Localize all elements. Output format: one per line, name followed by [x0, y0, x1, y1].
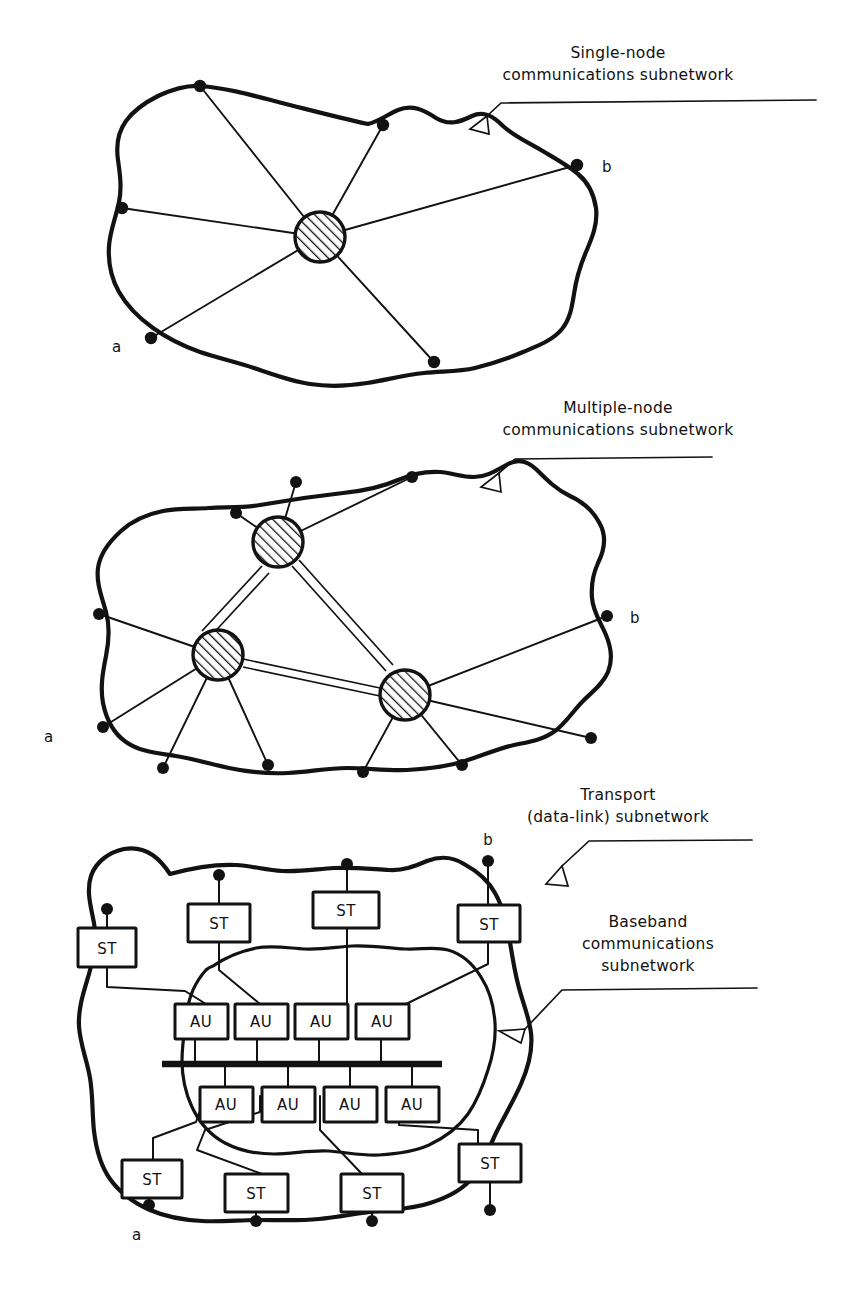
panel3-node-dot: [484, 1204, 496, 1216]
au-box-label: AU: [250, 1013, 272, 1031]
panel1-caption-line2: communications subnetwork: [502, 66, 733, 84]
panel2-subnetwork-boundary: [98, 461, 611, 773]
panel-transport: Transport (data-link) subnetwork Baseban…: [78, 786, 757, 1244]
st-box-label: ST: [246, 1185, 266, 1203]
panel1-node-dot: [571, 159, 583, 171]
au-box: AU: [175, 1004, 228, 1039]
panel2-endpoint-label-b: b: [630, 609, 640, 627]
panel3-caption-line2: (data-link) subnetwork: [527, 808, 709, 826]
figure-page: Single-node communications subnetwork: [0, 0, 847, 1296]
panel2-spoke: [405, 616, 607, 695]
panel1-subnetwork-boundary: [109, 86, 597, 386]
panel3-caption-line1: Transport: [579, 786, 655, 804]
panel3-inner-leader-line: [525, 988, 757, 1029]
panel2-node-dot: [406, 471, 418, 483]
panel3-node-dot: [366, 1215, 378, 1227]
st-box: ST: [225, 1174, 288, 1212]
st-box: ST: [122, 1160, 182, 1198]
panel1-caption-line1: Single-node: [570, 44, 665, 62]
panel1-leader-arrowhead: [470, 116, 489, 134]
au-box: AU: [324, 1087, 377, 1122]
panel2-central-node-top: [253, 517, 303, 567]
panel2-boundary-nodes: [93, 471, 613, 778]
panel1-node-dot: [194, 80, 206, 92]
panel2-spokes: [99, 477, 607, 772]
panel1-node-dot: [116, 202, 128, 214]
au-box-label: AU: [215, 1096, 237, 1114]
au-box-label: AU: [310, 1013, 332, 1031]
au-box: AU: [262, 1087, 315, 1122]
st-box: ST: [459, 1144, 521, 1182]
au-box: AU: [295, 1004, 348, 1039]
panel1-node-dot: [377, 119, 389, 131]
panel3-inner-caption-line2: communications: [582, 935, 714, 953]
panel2-node-dot: [157, 762, 169, 774]
panel1-central-node: [295, 212, 345, 262]
panel2-trunk: [243, 659, 380, 688]
panel3-inner-caption-line3: subnetwork: [601, 957, 695, 975]
au-box: AU: [235, 1004, 288, 1039]
au-box-label: AU: [401, 1096, 423, 1114]
panel2-trunk: [299, 560, 393, 665]
panel3-au-boxes-top: AU AU AU AU: [175, 1004, 409, 1039]
panel3-leader-arrowhead: [546, 866, 568, 886]
panel1-endpoint-label-a: a: [112, 338, 121, 356]
st-box: ST: [458, 905, 520, 942]
st-box: ST: [188, 904, 250, 942]
st-box-label: ST: [209, 915, 229, 933]
st-box: ST: [78, 928, 136, 967]
au-box: AU: [200, 1087, 253, 1122]
panel3-st-boxes: ST ST ST ST ST ST: [78, 892, 521, 1212]
panel2-node-dot: [262, 759, 274, 771]
st-box-label: ST: [336, 902, 356, 920]
panel3-node-dot: [143, 1199, 155, 1211]
au-box-label: AU: [371, 1013, 393, 1031]
au-box-label: AU: [339, 1096, 361, 1114]
st-box: ST: [341, 1174, 403, 1212]
st-box: ST: [313, 892, 379, 928]
panel2-trunk: [202, 566, 262, 631]
panel-multiple-node: Multiple-node communications subnetwork: [44, 399, 734, 778]
panel1-spokes: [122, 86, 577, 362]
panel1-spoke-4: [122, 208, 320, 237]
panel2-node-dot: [290, 476, 302, 488]
panel3-node-dot: [341, 858, 353, 870]
panel2-caption-line1: Multiple-node: [563, 399, 673, 417]
panel3-inner-leader-arrowhead: [499, 1029, 525, 1043]
panel3-inner-caption-line1: Baseband: [608, 913, 687, 931]
st-box-label: ST: [97, 940, 117, 958]
panel2-caption-line2: communications subnetwork: [502, 421, 733, 439]
panel2-node-dot: [601, 610, 613, 622]
panel2-trunk: [209, 573, 269, 638]
panel3-st-au-link: [219, 936, 260, 1004]
panel-single-node: Single-node communications subnetwork: [109, 44, 816, 386]
st-box-label: ST: [480, 1155, 500, 1173]
panel1-boundary-nodes: [116, 80, 583, 368]
panel1-leader-line: [487, 100, 816, 116]
figure-canvas: Single-node communications subnetwork: [0, 0, 847, 1296]
panel2-spoke: [405, 695, 591, 738]
panel2-node-dot: [97, 721, 109, 733]
panel2-endpoint-label-a: a: [44, 728, 53, 746]
panel3-st-au-links: [107, 922, 488, 1174]
panel1-spoke-3: [320, 165, 577, 237]
panel3-node-dot: [101, 903, 113, 915]
panel2-trunk: [243, 667, 380, 696]
au-box-label: AU: [277, 1096, 299, 1114]
panel2-central-node-right: [380, 670, 430, 720]
panel3-endpoint-label-a: a: [132, 1226, 141, 1244]
panel1-node-dot: [145, 332, 157, 344]
panel3-leader-line: [562, 840, 752, 866]
au-box: AU: [386, 1087, 439, 1122]
panel1-node-dot: [428, 356, 440, 368]
panel2-node-dot: [230, 507, 242, 519]
panel2-node-dot: [456, 759, 468, 771]
panel2-trunk: [292, 566, 386, 671]
panel3-endpoint-label-b: b: [483, 831, 493, 849]
st-box-label: ST: [479, 916, 499, 934]
panel3-node-dot: [213, 869, 225, 881]
au-box: AU: [356, 1004, 409, 1039]
panel2-node-dot: [93, 608, 105, 620]
au-box-label: AU: [190, 1013, 212, 1031]
st-box-label: ST: [142, 1171, 162, 1189]
